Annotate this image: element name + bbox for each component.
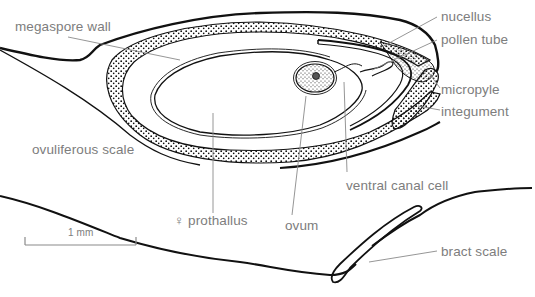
label-megaspore-wall: megaspore wall (15, 20, 111, 34)
label-nucellus: nucellus (441, 10, 491, 24)
scale-bar-label: 1 mm (68, 228, 93, 238)
label-integument: integument (441, 105, 509, 119)
ovum-shape (294, 62, 363, 95)
label-bract-scale: bract scale (441, 245, 507, 259)
label-prothallus: ♀ prothallus (174, 214, 248, 228)
label-ventral-canal-cell: ventral canal cell (346, 179, 448, 193)
label-ovum: ovum (285, 219, 318, 233)
prothallus-shape (151, 49, 366, 138)
label-ovuliferous-scale: ovuliferous scale (32, 143, 134, 157)
label-pollen-tube: pollen tube (441, 33, 508, 47)
label-micropyle: micropyle (441, 83, 500, 97)
leader-bract-scale (369, 251, 437, 262)
integument-shape (107, 22, 440, 163)
ovule-diagram: megaspore wall nucellus pollen tube micr… (0, 0, 535, 297)
bract-scale-shape (332, 206, 422, 282)
